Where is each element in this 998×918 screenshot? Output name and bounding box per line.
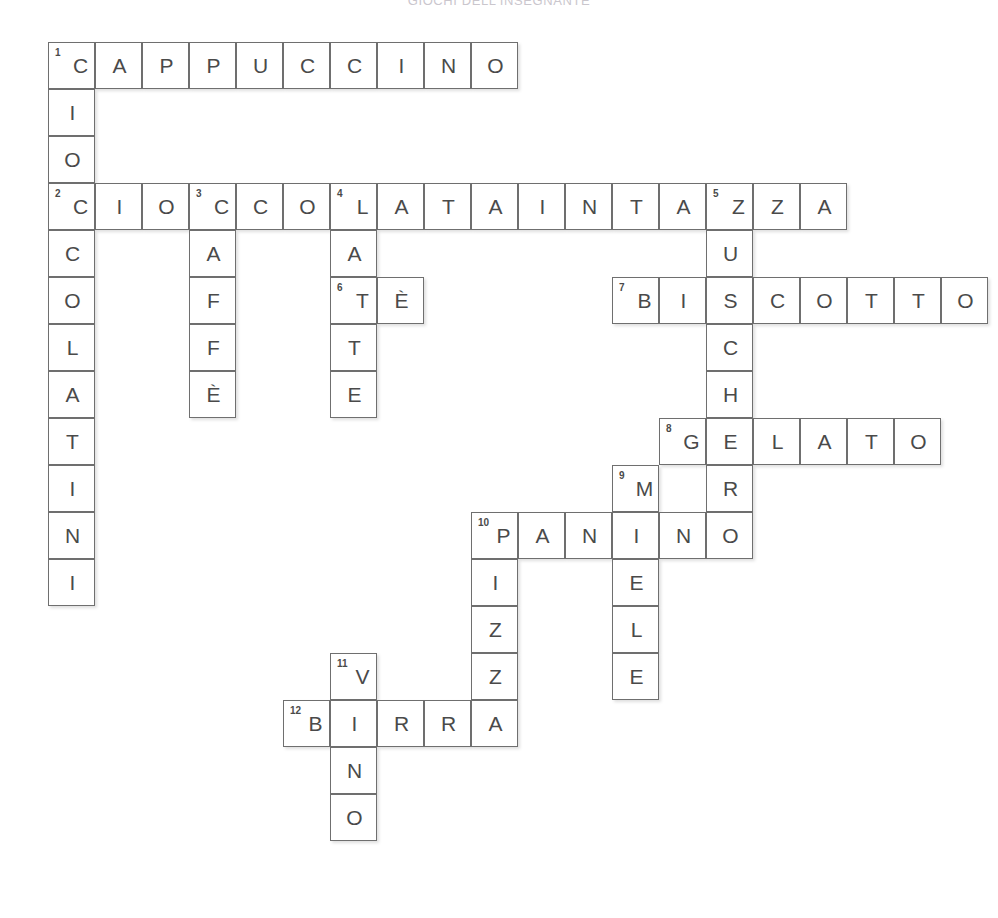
cell-letter: N: [566, 513, 612, 558]
crossword-cell[interactable]: F: [189, 324, 236, 371]
crossword-cell[interactable]: 12B: [283, 700, 330, 747]
crossword-cell[interactable]: T: [612, 183, 659, 230]
crossword-cell[interactable]: 11V: [330, 653, 377, 700]
crossword-cell[interactable]: N: [659, 512, 706, 559]
cell-letter: T: [331, 325, 377, 370]
crossword-cell[interactable]: T: [847, 418, 894, 465]
crossword-cell[interactable]: A: [48, 371, 95, 418]
crossword-cell[interactable]: P: [189, 42, 236, 89]
crossword-cell[interactable]: N: [48, 512, 95, 559]
crossword-cell[interactable]: L: [612, 606, 659, 653]
crossword-cell[interactable]: C: [283, 42, 330, 89]
crossword-cell[interactable]: L: [753, 418, 800, 465]
crossword-cell[interactable]: R: [377, 700, 424, 747]
crossword-cell[interactable]: O: [330, 794, 377, 841]
crossword-cell[interactable]: O: [471, 42, 518, 89]
crossword-cell[interactable]: E: [612, 559, 659, 606]
crossword-cell[interactable]: 8G: [659, 418, 706, 465]
crossword-cell[interactable]: T: [894, 277, 941, 324]
crossword-cell[interactable]: O: [283, 183, 330, 230]
crossword-cell[interactable]: C: [236, 183, 283, 230]
cell-letter: Z: [754, 184, 800, 229]
crossword-cell[interactable]: N: [565, 183, 612, 230]
crossword-cell[interactable]: C: [330, 42, 377, 89]
crossword-cell[interactable]: 6T: [330, 277, 377, 324]
crossword-cell[interactable]: N: [424, 42, 471, 89]
crossword-cell[interactable]: C: [753, 277, 800, 324]
crossword-cell[interactable]: I: [48, 465, 95, 512]
crossword-cell[interactable]: E: [706, 418, 753, 465]
crossword-cell[interactable]: A: [518, 512, 565, 559]
crossword-cell[interactable]: A: [330, 230, 377, 277]
crossword-cell[interactable]: I: [659, 277, 706, 324]
crossword-cell[interactable]: O: [894, 418, 941, 465]
crossword-cell[interactable]: U: [706, 230, 753, 277]
crossword-cell[interactable]: I: [612, 512, 659, 559]
crossword-cell[interactable]: 5Z: [706, 183, 753, 230]
crossword-cell[interactable]: I: [518, 183, 565, 230]
crossword-cell[interactable]: O: [48, 136, 95, 183]
cell-letter: O: [942, 278, 988, 323]
crossword-cell[interactable]: H: [706, 371, 753, 418]
crossword-cell[interactable]: A: [189, 230, 236, 277]
crossword-cell[interactable]: 9M: [612, 465, 659, 512]
cell-letter: C: [49, 231, 95, 276]
crossword-cell[interactable]: A: [800, 418, 847, 465]
crossword-cell[interactable]: E: [612, 653, 659, 700]
crossword-grid: 1CAPPUCCINOIO2CIO3CCO4LATAINTA5ZZACAAUOF…: [0, 0, 998, 918]
cell-letter: S: [707, 278, 753, 323]
crossword-cell[interactable]: T: [48, 418, 95, 465]
crossword-cell[interactable]: R: [424, 700, 471, 747]
crossword-cell[interactable]: 1C: [48, 42, 95, 89]
crossword-cell[interactable]: O: [706, 512, 753, 559]
crossword-cell[interactable]: A: [377, 183, 424, 230]
crossword-cell[interactable]: I: [377, 42, 424, 89]
crossword-cell[interactable]: L: [48, 324, 95, 371]
cell-letter: E: [613, 654, 659, 699]
crossword-cell[interactable]: I: [48, 89, 95, 136]
crossword-cell[interactable]: I: [95, 183, 142, 230]
crossword-cell[interactable]: Z: [753, 183, 800, 230]
cell-letter: T: [895, 278, 941, 323]
crossword-cell[interactable]: Z: [471, 653, 518, 700]
cell-letter: P: [190, 43, 236, 88]
crossword-cell[interactable]: Z: [471, 606, 518, 653]
crossword-cell[interactable]: 4L: [330, 183, 377, 230]
crossword-cell[interactable]: A: [659, 183, 706, 230]
crossword-cell[interactable]: R: [706, 465, 753, 512]
crossword-cell[interactable]: A: [471, 700, 518, 747]
cell-letter: O: [284, 184, 330, 229]
crossword-cell[interactable]: N: [565, 512, 612, 559]
crossword-cell[interactable]: O: [800, 277, 847, 324]
crossword-cell[interactable]: P: [142, 42, 189, 89]
crossword-cell[interactable]: I: [471, 559, 518, 606]
crossword-cell[interactable]: 10P: [471, 512, 518, 559]
crossword-cell[interactable]: I: [48, 559, 95, 606]
crossword-cell[interactable]: 7B: [612, 277, 659, 324]
cell-letter: I: [331, 701, 377, 746]
crossword-cell[interactable]: I: [330, 700, 377, 747]
crossword-cell[interactable]: O: [941, 277, 988, 324]
crossword-cell[interactable]: T: [330, 324, 377, 371]
crossword-cell[interactable]: F: [189, 277, 236, 324]
crossword-cell[interactable]: E: [330, 371, 377, 418]
cell-letter: A: [801, 184, 847, 229]
crossword-cell[interactable]: A: [800, 183, 847, 230]
crossword-cell[interactable]: 3C: [189, 183, 236, 230]
crossword-cell[interactable]: È: [189, 371, 236, 418]
crossword-cell[interactable]: 2C: [48, 183, 95, 230]
crossword-cell[interactable]: S: [706, 277, 753, 324]
crossword-cell[interactable]: A: [95, 42, 142, 89]
crossword-cell[interactable]: A: [471, 183, 518, 230]
crossword-cell[interactable]: T: [424, 183, 471, 230]
crossword-cell[interactable]: C: [48, 230, 95, 277]
crossword-cell[interactable]: N: [330, 747, 377, 794]
crossword-cell[interactable]: U: [236, 42, 283, 89]
crossword-cell[interactable]: T: [847, 277, 894, 324]
cell-letter: I: [49, 560, 95, 605]
crossword-cell[interactable]: O: [48, 277, 95, 324]
cell-letter: I: [49, 466, 95, 511]
crossword-cell[interactable]: È: [377, 277, 424, 324]
crossword-cell[interactable]: O: [142, 183, 189, 230]
crossword-cell[interactable]: C: [706, 324, 753, 371]
